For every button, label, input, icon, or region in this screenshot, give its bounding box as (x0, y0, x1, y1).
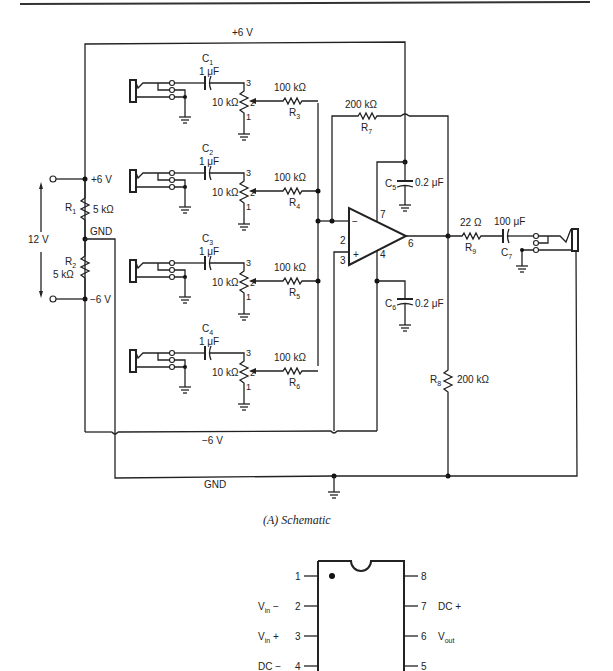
pot-pin-2: 2 (250, 188, 255, 198)
pot-pin-2: 2 (250, 368, 255, 378)
input-channels: C11 μF10 kΩ321100 kΩR3C21 μF10 kΩ321100 … (130, 53, 318, 410)
opamp-minus: − (352, 216, 358, 227)
pot-pin-2: 2 (250, 98, 255, 108)
cap-name: C2 (202, 143, 213, 156)
pin-number: 4 (295, 661, 301, 671)
pin-number: 5 (421, 661, 427, 671)
input-channel-4: C41 μF10 kΩ321100 kΩR6 (130, 323, 318, 410)
pin-number: 2 (295, 601, 301, 612)
res-value: 100 kΩ (274, 172, 306, 183)
pot-pin-3: 3 (246, 258, 251, 268)
supply-terminal-neg[interactable] (50, 296, 56, 302)
c5-name: C5 (385, 178, 396, 191)
r2-value: 5 kΩ (53, 269, 74, 280)
input-channel-2: C21 μF10 kΩ321100 kΩR4 (130, 143, 318, 230)
input-channel-1: C11 μF10 kΩ321100 kΩR3 (130, 53, 318, 140)
opamp-pin-2: 2 (340, 235, 346, 246)
voltage-divider: +6 V R1 5 kΩ GND R2 5 kΩ −6 V 12 V (28, 174, 115, 432)
ic-pin-4: 4DC − (258, 661, 318, 671)
pot-value: 10 kΩ (212, 367, 239, 378)
c7-name: C7 (501, 247, 512, 260)
cap-name: C4 (202, 323, 213, 336)
r7-value: 200 kΩ (345, 99, 377, 110)
pin-number: 3 (295, 631, 301, 642)
opamp-pin-7: 7 (380, 209, 386, 220)
r8-value: 200 kΩ (457, 374, 489, 385)
pos-rail-label: +6 V (232, 27, 253, 38)
opamp-pin-3: 3 (340, 255, 346, 266)
input-jack[interactable] (130, 350, 136, 372)
pot-pin-3: 3 (246, 78, 251, 88)
output-stage: 22 Ω R9 100 μF C7 (448, 216, 578, 476)
pin-label: DC + (438, 601, 461, 612)
pot-pin-1: 1 (246, 202, 251, 212)
divider-gnd-label: GND (90, 226, 112, 237)
ic-pin-1: 1 (0, 0, 318, 582)
ic-pin-3: 3Vin + (258, 631, 318, 644)
pin-label: Vin − (258, 601, 279, 614)
gnd-rail: GND (115, 432, 448, 498)
ic-pin-7: 7DC + (404, 601, 461, 612)
opamp-pin-6: 6 (408, 238, 414, 249)
cap-name: C3 (202, 233, 213, 246)
c7-value: 100 μF (494, 216, 525, 227)
res-name: R6 (289, 377, 300, 390)
c6-name: C6 (385, 298, 396, 311)
cap-value: 1 μF (199, 156, 219, 167)
cap-value: 1 μF (199, 336, 219, 347)
pin-label: DC − (258, 661, 281, 671)
pin-number: 8 (421, 571, 427, 582)
supply-terminal-pos[interactable] (50, 176, 56, 182)
res-value: 100 kΩ (274, 82, 306, 93)
res-name: R5 (289, 287, 300, 300)
r9-name: R9 (465, 242, 476, 255)
res-value: 100 kΩ (274, 262, 306, 273)
input-channel-3: C31 μF10 kΩ321100 kΩR5 (130, 233, 318, 320)
output-jack[interactable] (572, 229, 578, 251)
pot-pin-3: 3 (246, 168, 251, 178)
neg-rail-label: −6 V (202, 435, 223, 446)
r1-value: 5 kΩ (93, 204, 114, 215)
input-jack[interactable] (130, 260, 136, 282)
supply-voltage-label: 12 V (28, 234, 49, 245)
r9-value: 22 Ω (460, 217, 482, 228)
ic-pin-8: 8 (0, 0, 427, 582)
pot-pin-1: 1 (246, 292, 251, 302)
schematic-canvas: +6 V +6 V R1 5 kΩ GND R2 5 kΩ −6 V 12 V … (0, 0, 613, 671)
ic-pin-6: 6Vout (404, 631, 454, 644)
neg-rail: −6 V (85, 431, 377, 446)
opamp-plus: + (353, 249, 359, 260)
cap-name: C1 (202, 53, 213, 66)
pot-pin-1: 1 (246, 382, 251, 392)
divider-pos-label: +6 V (91, 174, 112, 185)
ic-pin-2: 2Vin − (258, 601, 318, 614)
divider-neg-label: −6 V (90, 294, 111, 305)
pot-pin-1: 1 (246, 112, 251, 122)
r7-name: R7 (361, 122, 372, 135)
input-jack[interactable] (130, 170, 136, 192)
r2-name: R2 (65, 256, 76, 269)
pin-number: 7 (421, 601, 427, 612)
pin-label: Vin + (258, 631, 279, 644)
res-name: R4 (289, 197, 300, 210)
pot-value: 10 kΩ (212, 277, 239, 288)
decoupling-cap-c5: C5 0.2 μF (377, 112, 444, 222)
op-amp: − + 2 3 6 7 4 (334, 208, 451, 431)
decoupling-cap-c6: C6 0.2 μF (375, 251, 444, 431)
pot-value: 10 kΩ (212, 97, 239, 108)
pot-value: 10 kΩ (212, 187, 239, 198)
pot-pin-3: 3 (246, 348, 251, 358)
gnd-rail-label: GND (204, 479, 226, 490)
pin-number: 6 (421, 631, 427, 642)
figure-caption: (A) Schematic (263, 513, 331, 527)
top-rule (20, 2, 590, 4)
input-jack[interactable] (130, 80, 136, 102)
r1-name: R1 (65, 202, 76, 215)
pin-label: Vout (438, 631, 454, 644)
cap-value: 1 μF (199, 66, 219, 77)
r8-name: R8 (430, 374, 441, 387)
opamp-pin-4: 4 (380, 249, 386, 260)
pin-number: 1 (295, 571, 301, 582)
pot-pin-2: 2 (250, 278, 255, 288)
c6-value: 0.2 μF (415, 298, 444, 309)
